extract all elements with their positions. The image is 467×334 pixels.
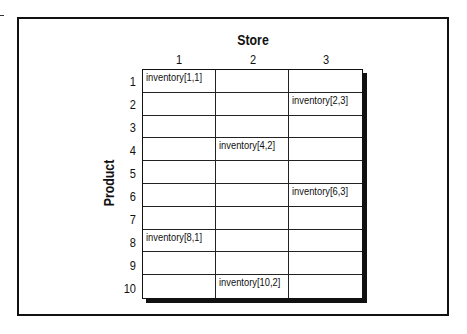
grid-cell	[216, 161, 289, 184]
row-label: 2	[119, 96, 136, 111]
grid-cell: inventory[8,1]	[143, 230, 216, 253]
grid-cell	[216, 116, 289, 139]
grid-cell: inventory[4,2]	[216, 138, 289, 161]
grid-cell	[216, 230, 289, 253]
column-label: 2	[249, 52, 255, 67]
row-label: 7	[119, 211, 136, 226]
grid-cell: inventory[10,2]	[216, 275, 289, 298]
grid-cell	[143, 207, 216, 230]
grid-cell	[289, 161, 362, 184]
grid-cell	[143, 93, 216, 116]
grid-cell	[289, 116, 362, 139]
grid-cell	[289, 207, 362, 230]
corner-tick-mark	[0, 15, 4, 16]
grid-cell	[143, 116, 216, 139]
row-label: 5	[119, 165, 136, 180]
grid-cell	[216, 252, 289, 275]
grid-cell: inventory[2,3]	[289, 93, 362, 116]
cell-label: inventory[8,1]	[146, 231, 202, 243]
grid-cell	[289, 230, 362, 253]
grid-cell	[289, 275, 362, 298]
column-axis-title: Store	[237, 31, 268, 48]
row-label: 3	[119, 119, 136, 134]
grid-cell	[216, 70, 289, 93]
row-label: 4	[119, 142, 136, 157]
cell-label: inventory[1,1]	[146, 71, 202, 83]
grid-cell	[289, 70, 362, 93]
row-label: 9	[119, 257, 136, 272]
grid-cell	[143, 184, 216, 207]
grid-cell	[216, 207, 289, 230]
row-axis-title: Product	[100, 160, 117, 206]
grid-cell	[143, 252, 216, 275]
grid-cell	[143, 275, 216, 298]
inventory-grid: inventory[1,1]inventory[2,3]inventory[4,…	[142, 69, 363, 299]
grid-cell	[143, 138, 216, 161]
grid-cell	[216, 184, 289, 207]
cell-label: inventory[4,2]	[219, 139, 275, 151]
cell-label: inventory[2,3]	[292, 94, 348, 106]
grid-cell	[216, 93, 289, 116]
row-label: 10	[119, 280, 136, 295]
grid-cell: inventory[6,3]	[289, 184, 362, 207]
row-label: 6	[119, 188, 136, 203]
grid-cell	[289, 138, 362, 161]
cell-label: inventory[6,3]	[292, 185, 348, 197]
row-label: 1	[119, 73, 136, 88]
row-label: 8	[119, 234, 136, 249]
column-label: 3	[323, 52, 329, 67]
grid-cell: inventory[1,1]	[143, 70, 216, 93]
grid-cell	[143, 161, 216, 184]
column-label: 1	[176, 52, 182, 67]
cell-label: inventory[10,2]	[219, 276, 280, 288]
grid-cell	[289, 252, 362, 275]
